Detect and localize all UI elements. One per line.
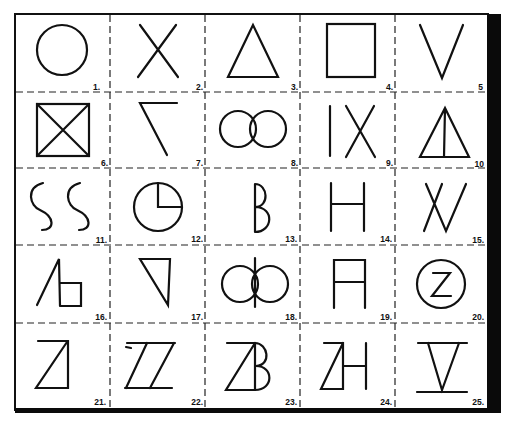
figure-19-a-box-icon (334, 260, 365, 308)
cell-label: 19. (380, 312, 392, 322)
cell-label: 12. (191, 234, 203, 244)
cell-label: 3. (291, 82, 298, 92)
figure-22-double-z-icon (125, 343, 175, 388)
cell-label: 24. (380, 397, 392, 407)
figure-9-bar-x-icon (330, 106, 375, 157)
cell-label: 13. (285, 234, 297, 244)
cell-label: 23. (285, 397, 297, 407)
figure-plate: 1. 2. 3. 4. 5 6. 7. 8. 9. 10 11. 12. 13.… (0, 0, 510, 426)
cell-label: 5 (478, 82, 483, 92)
cell-label: 18. (285, 312, 297, 322)
cell-label: 4. (386, 82, 393, 92)
cell-label: 15. (472, 235, 484, 245)
cell-label: 9. (386, 158, 393, 168)
frame-shadow-right (487, 14, 501, 413)
figure-7-seven-icon (140, 103, 177, 155)
figure-2-x-icon (138, 25, 178, 77)
figure-6-square-diagonals-icon (37, 104, 89, 156)
figure-12-circle-quadrant-icon (134, 183, 182, 231)
cell-label: 1. (93, 82, 100, 92)
figure-10-triangle-median-icon (420, 108, 469, 157)
figure-11-double-s-icon (31, 183, 89, 230)
figure-14-h-icon (331, 183, 364, 231)
figure-5-v-icon (420, 25, 463, 78)
figure-1-circle-icon (37, 25, 87, 75)
cell-label: 22. (191, 397, 203, 407)
cell-label: 2. (196, 82, 203, 92)
cell-label: 11. (96, 235, 107, 245)
figure-24-z-h-icon (321, 343, 366, 389)
figure-4-square-icon (327, 24, 375, 77)
figure-17-triangle-icon (140, 259, 170, 305)
figure-25-inverted-triangle-bars-icon (417, 343, 467, 392)
figure-23-z-b-icon (226, 343, 269, 390)
cell-label: 8. (291, 158, 298, 168)
figure-20-z-circle-icon (417, 260, 465, 308)
figure-13-half-b-icon (255, 184, 269, 232)
cell-label: 6. (101, 158, 108, 168)
figure-3-triangle-icon (228, 25, 278, 77)
figure-18-circles-lens-bar-icon (222, 258, 288, 307)
cell-label: 7. (196, 158, 203, 168)
cell-label: 20. (472, 312, 484, 322)
cell-label: 21. (94, 397, 106, 407)
figure-16-slash-box-icon (37, 259, 81, 306)
frame-shadow-bottom (15, 408, 501, 413)
figure-21-z-triangle-icon (36, 341, 68, 388)
figure-15-n-zigzag-icon (424, 184, 466, 231)
cell-label: 16. (95, 312, 107, 322)
cell-label: 17. (191, 312, 203, 322)
cell-label: 25. (472, 397, 484, 407)
cell-label: 14. (380, 234, 392, 244)
figure-8-overlapping-circles-icon (220, 111, 286, 147)
cell-label: 10 (475, 159, 485, 169)
